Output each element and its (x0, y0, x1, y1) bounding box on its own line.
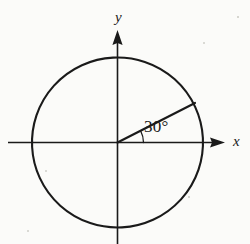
x-axis-label: x (233, 134, 240, 149)
angle-measure-label: 30° (144, 118, 168, 135)
y-axis-arrowhead (112, 30, 122, 45)
unit-circle-diagram (0, 0, 250, 244)
x-axis-arrowhead (210, 138, 225, 148)
figure-canvas: y x 30° (0, 0, 250, 244)
y-axis-label: y (115, 10, 122, 25)
